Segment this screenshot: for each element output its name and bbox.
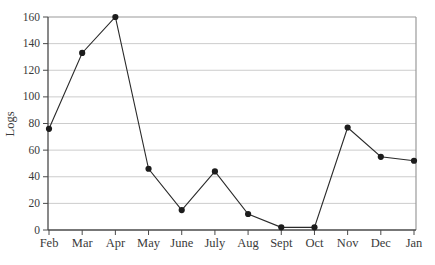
x-tick-label: Aug [237, 236, 259, 250]
logs-line-chart-figure: 020406080100120140160FebMarAprMayJuneJul… [0, 0, 435, 265]
y-tick-label: 160 [23, 11, 41, 23]
x-tick-label: June [170, 236, 193, 250]
x-tick-label: May [137, 236, 161, 250]
y-tick-label: 20 [29, 197, 41, 209]
x-tick-label: Jan [406, 236, 423, 250]
y-axis-title: Logs [3, 111, 17, 136]
y-tick-label: 0 [34, 224, 40, 236]
y-tick-label: 120 [23, 64, 41, 76]
data-point [145, 166, 151, 172]
x-tick-label: Sept [270, 236, 293, 250]
data-point [212, 168, 218, 174]
data-point [278, 224, 284, 230]
x-tick-label: Oct [305, 236, 324, 250]
data-point [112, 14, 118, 20]
y-tick-label: 40 [29, 170, 41, 182]
data-point [378, 154, 384, 160]
y-tick-label: 100 [23, 90, 41, 102]
data-line [49, 17, 414, 227]
x-tick-label: Mar [72, 236, 94, 250]
x-tick-label: Apr [106, 236, 126, 250]
x-tick-label: Dec [371, 236, 392, 250]
y-tick-label: 140 [23, 37, 41, 49]
y-tick-label: 80 [29, 117, 41, 129]
data-point [311, 224, 317, 230]
line-chart-canvas: 020406080100120140160FebMarAprMayJuneJul… [0, 0, 435, 265]
x-tick-label: Feb [40, 236, 59, 250]
data-point [245, 211, 251, 217]
y-tick-label: 60 [29, 144, 41, 156]
data-point [345, 124, 351, 130]
data-point [411, 158, 417, 164]
x-tick-label: July [204, 236, 226, 250]
data-point [179, 207, 185, 213]
x-tick-label: Nov [337, 236, 359, 250]
data-point [79, 50, 85, 56]
data-point [46, 126, 52, 132]
